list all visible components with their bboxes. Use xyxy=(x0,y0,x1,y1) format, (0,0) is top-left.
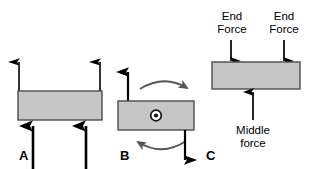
panel-a: A xyxy=(0,0,112,169)
force-diagram-figure: A xyxy=(0,0,310,169)
panel-a-label: A xyxy=(19,149,29,162)
end-force-left-line1: End xyxy=(204,10,260,23)
panel-c-label: C xyxy=(206,149,216,162)
middle-force-line1: Middle xyxy=(222,124,284,137)
end-force-left-line2: Force xyxy=(204,23,260,36)
panel-c-beam xyxy=(212,62,300,89)
panel-c: End Force End Force Middle force C xyxy=(200,0,310,169)
panel-b-rotation-arc-top xyxy=(140,81,187,89)
panel-a-beam xyxy=(18,91,102,120)
end-force-right-line1: End xyxy=(256,10,310,23)
middle-force-label: Middle force xyxy=(222,124,284,150)
panel-b-graphics xyxy=(112,0,200,169)
panel-b-label: B xyxy=(120,149,130,162)
circle-dot-icon xyxy=(151,110,162,121)
end-force-left-label: End Force xyxy=(204,10,260,36)
end-force-right-line2: Force xyxy=(256,23,310,36)
end-force-right-label: End Force xyxy=(256,10,310,36)
panel-b: B xyxy=(112,0,200,169)
panel-b-rotation-arc-bottom xyxy=(138,141,186,149)
panel-a-graphics xyxy=(0,0,112,169)
middle-force-line2: force xyxy=(222,137,284,150)
